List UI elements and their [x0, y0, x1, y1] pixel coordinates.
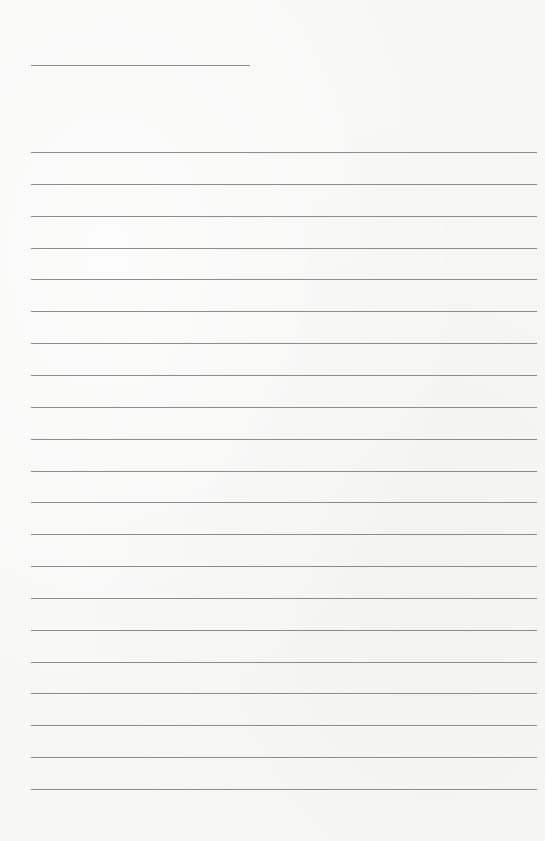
- ruled-line: [31, 216, 537, 217]
- ruled-line: [31, 439, 537, 440]
- title-line: [31, 65, 250, 66]
- ruled-line: [31, 375, 537, 376]
- ruled-line: [31, 407, 537, 408]
- ruled-line: [31, 279, 537, 280]
- ruled-line: [31, 471, 537, 472]
- ruled-line: [31, 311, 537, 312]
- ruled-line: [31, 662, 537, 663]
- ruled-line: [31, 630, 537, 631]
- ruled-line: [31, 152, 537, 153]
- ruled-line: [31, 502, 537, 503]
- ruled-line: [31, 789, 537, 790]
- ruled-line: [31, 534, 537, 535]
- ruled-line: [31, 248, 537, 249]
- ruled-line: [31, 757, 537, 758]
- ruled-line: [31, 725, 537, 726]
- ruled-line: [31, 693, 537, 694]
- ruled-line: [31, 184, 537, 185]
- lined-paper-sheet: [0, 0, 545, 841]
- ruled-line: [31, 343, 537, 344]
- ruled-line: [31, 566, 537, 567]
- ruled-line: [31, 598, 537, 599]
